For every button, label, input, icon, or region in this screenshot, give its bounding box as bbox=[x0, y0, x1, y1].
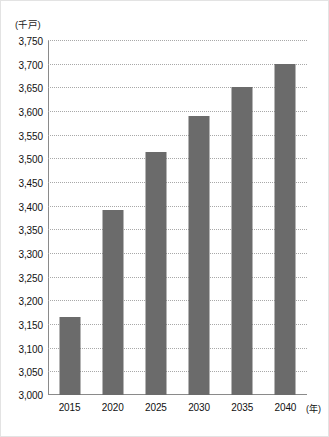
y-axis-line bbox=[48, 40, 49, 395]
gridline: 3,150 bbox=[48, 324, 307, 325]
x-tick-label: 2030 bbox=[188, 402, 210, 413]
x-tick-label: 2015 bbox=[59, 402, 81, 413]
y-tick-label: 3,400 bbox=[18, 201, 43, 212]
x-tick-label: 2025 bbox=[145, 402, 167, 413]
gridline: 3,750 bbox=[48, 40, 307, 41]
y-tick-label: 3,450 bbox=[18, 178, 43, 189]
gridline: 3,250 bbox=[48, 277, 307, 278]
gridline: 3,400 bbox=[48, 206, 307, 207]
bar bbox=[275, 64, 296, 395]
gridline: 3,100 bbox=[48, 348, 307, 349]
gridline: 3,550 bbox=[48, 135, 307, 136]
gridline: 3,450 bbox=[48, 182, 307, 183]
bar bbox=[189, 116, 210, 395]
y-tick-label: 3,600 bbox=[18, 107, 43, 118]
plot-area: 3,7503,7003,6503,6003,5503,5003,4503,400… bbox=[48, 40, 307, 395]
y-tick-label: 3,050 bbox=[18, 367, 43, 378]
y-tick-label: 3,350 bbox=[18, 225, 43, 236]
gridline: 3,600 bbox=[48, 111, 307, 112]
bar bbox=[102, 210, 123, 395]
bar bbox=[232, 87, 253, 395]
gridline: 3,650 bbox=[48, 87, 307, 88]
y-tick-label: 3,750 bbox=[18, 36, 43, 47]
chart-figure: (千戸) 3,7503,7003,6503,6003,5503,5003,450… bbox=[0, 0, 329, 437]
bar bbox=[145, 152, 166, 395]
gridline: 3,300 bbox=[48, 253, 307, 254]
x-tick-label: 2035 bbox=[231, 402, 253, 413]
x-tick-label: 2020 bbox=[102, 402, 124, 413]
gridline: 3,350 bbox=[48, 229, 307, 230]
y-tick-label: 3,150 bbox=[18, 320, 43, 331]
y-tick-label: 3,500 bbox=[18, 154, 43, 165]
y-tick-label: 3,300 bbox=[18, 249, 43, 260]
y-axis-unit-label: (千戸) bbox=[15, 17, 41, 31]
y-tick-label: 3,650 bbox=[18, 83, 43, 94]
y-tick-label: 3,250 bbox=[18, 272, 43, 283]
x-tick-label: 2040 bbox=[274, 402, 296, 413]
y-tick-label: 3,700 bbox=[18, 59, 43, 70]
gridline: 3,500 bbox=[48, 158, 307, 159]
y-tick-label: 3,200 bbox=[18, 296, 43, 307]
x-axis-line bbox=[48, 394, 307, 395]
y-tick-label: 3,550 bbox=[18, 130, 43, 141]
gridline: 3,700 bbox=[48, 64, 307, 65]
x-axis-unit-label: (年) bbox=[306, 402, 321, 415]
gridline: 3,050 bbox=[48, 371, 307, 372]
source-note bbox=[17, 430, 320, 437]
y-tick-label: 3,100 bbox=[18, 343, 43, 354]
gridline: 3,200 bbox=[48, 300, 307, 301]
bar bbox=[59, 317, 80, 395]
y-tick-label: 3,000 bbox=[18, 390, 43, 401]
